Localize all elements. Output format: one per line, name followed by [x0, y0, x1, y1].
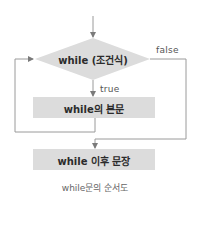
true-label: true: [100, 84, 120, 94]
diagram-caption: while문의 순서도: [62, 181, 128, 194]
body-label: while의 본문: [64, 101, 124, 116]
after-label: while 이후 문장: [58, 153, 131, 168]
false-label: false: [156, 45, 179, 55]
condition-label: while (조건식): [58, 52, 128, 67]
